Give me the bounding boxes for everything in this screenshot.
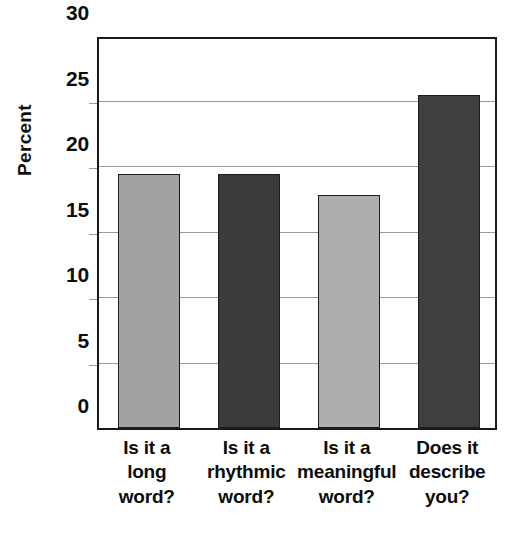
x-tick-label-line: meaningful [297,460,396,484]
x-tick-label-4: Does itdescribeyou? [397,436,497,536]
bar-3 [318,195,381,428]
x-tick-label-line: Does it [398,436,496,460]
bar-2 [218,174,281,428]
y-tick-label-30: 30 [43,1,89,25]
y-tick-mark-10 [89,299,97,300]
y-tick-label-5: 5 [43,329,89,353]
y-tick-label-25: 25 [43,67,89,91]
y-tick-label-15: 15 [43,198,89,222]
x-tick-label-2: Is it arhythmicword? [197,436,297,536]
x-tick-label-line: Is it a [297,436,396,460]
y-tick-label-0: 0 [43,394,89,418]
y-axis-tick-labels: 051015202530 [35,37,89,430]
y-tick-mark-25 [89,103,97,104]
x-tick-label-line: word? [198,485,296,509]
x-tick-label-line: describe [398,460,496,484]
bar-1 [118,174,181,428]
x-tick-label-1: Is it alongword? [97,436,197,536]
bar-4 [418,95,481,428]
y-tick-mark-20 [89,168,97,169]
x-tick-label-line: you? [398,485,496,509]
y-tick-label-10: 10 [43,263,89,287]
y-tick-label-20: 20 [43,132,89,156]
y-tick-mark-5 [89,365,97,366]
plot-inner [99,39,495,428]
x-tick-label-3: Is it ameaningfulword? [296,436,397,536]
bar-chart-figure: Percent 051015202530 Is it alongword?Is … [0,0,525,539]
x-tick-label-line: Is it a [198,436,296,460]
plot-area [97,37,497,430]
x-tick-label-line: Is it a [98,436,196,460]
y-tick-mark-15 [89,234,97,235]
x-tick-label-line: rhythmic [198,460,296,484]
x-tick-label-line: word? [297,485,396,509]
x-axis-tick-labels: Is it alongword?Is it arhythmicword?Is i… [97,436,497,536]
x-tick-label-line: long [98,460,196,484]
x-tick-label-line: word? [98,485,196,509]
